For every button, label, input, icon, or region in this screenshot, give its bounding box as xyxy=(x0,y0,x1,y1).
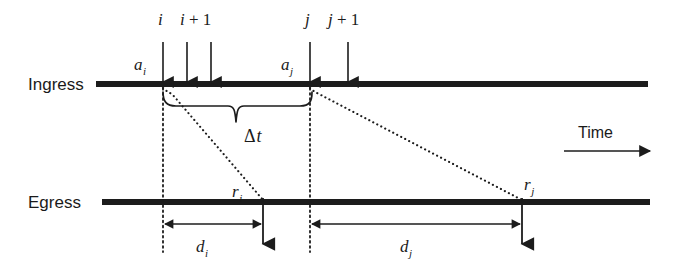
departure-markers-group: ri rj xyxy=(232,175,534,244)
service-path-j xyxy=(310,88,522,200)
packet-label-j-plus-1: j + 1 xyxy=(326,10,359,29)
timing-diagram-figure: Ingress Egress i i + 1 j xyxy=(0,0,674,268)
ingress-axis-label: Ingress xyxy=(28,75,84,94)
timing-diagram-canvas: Ingress Egress i i + 1 j xyxy=(0,0,674,268)
time-direction-group: Time xyxy=(564,124,650,151)
delta-t-label: Δt xyxy=(244,126,263,146)
arrival-time-label-a-j: aj xyxy=(281,55,293,77)
time-axis-label: Time xyxy=(578,124,613,141)
delay-label-d-i: di xyxy=(196,237,208,259)
departure-label-r-i: ri xyxy=(232,182,242,204)
ingress-axis-group: Ingress xyxy=(28,75,648,94)
arrival-arrows-group xyxy=(163,42,348,82)
departure-label-r-j: rj xyxy=(524,175,534,197)
delay-label-d-j: dj xyxy=(400,237,412,259)
arrival-time-label-a-i: ai xyxy=(134,55,146,77)
delta-t-brace xyxy=(163,92,312,122)
delta-t-brace-group: Δt xyxy=(163,92,312,146)
service-paths-group xyxy=(163,88,522,200)
packet-label-i: i xyxy=(158,10,163,29)
packet-label-i-plus-1: i + 1 xyxy=(180,10,211,29)
delay-dimensions-group: di dj xyxy=(165,224,520,259)
egress-axis-group: Egress xyxy=(28,193,650,212)
egress-axis-label: Egress xyxy=(28,193,81,212)
packet-index-labels-group: i i + 1 j j + 1 xyxy=(158,10,359,29)
packet-label-j: j xyxy=(303,10,310,29)
arrival-time-labels-group: ai aj xyxy=(134,55,293,77)
